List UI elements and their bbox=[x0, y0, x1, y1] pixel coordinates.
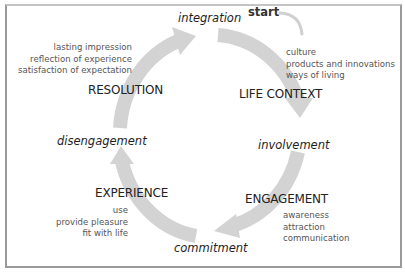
resolution-item: reflection of experience bbox=[18, 54, 132, 66]
phase-integration: integration bbox=[178, 13, 241, 25]
resolution-items: lasting impression reflection of experie… bbox=[18, 42, 132, 77]
experience-items: use provide pleasure fit with life bbox=[56, 205, 128, 240]
life-context-item: ways of living bbox=[286, 70, 395, 82]
stage-resolution: RESOLUTION bbox=[88, 84, 163, 96]
experience-item: provide pleasure bbox=[56, 217, 128, 229]
life-context-item: culture bbox=[286, 47, 395, 59]
resolution-item: lasting impression bbox=[18, 42, 132, 54]
stage-engagement: ENGAGEMENT bbox=[245, 193, 328, 205]
engagement-item: communication bbox=[283, 233, 349, 245]
engagement-items: awareness attraction communication bbox=[283, 210, 349, 245]
life-context-item: products and innovations bbox=[286, 59, 395, 71]
stage-experience: EXPERIENCE bbox=[95, 187, 168, 199]
experience-item: use bbox=[56, 205, 128, 217]
resolution-item: satisfaction of expectation bbox=[18, 65, 132, 77]
start-arrow-icon bbox=[280, 13, 302, 34]
experience-item: fit with life bbox=[56, 228, 128, 240]
life-context-items: culture products and innovations ways of… bbox=[286, 47, 395, 82]
stage-life-context: LIFE CONTEXT bbox=[239, 88, 322, 100]
engagement-item: awareness bbox=[283, 210, 349, 222]
engagement-item: attraction bbox=[283, 222, 349, 234]
phase-disengagement: disengagement bbox=[57, 136, 147, 148]
start-label: start bbox=[248, 7, 279, 19]
phase-involvement: involvement bbox=[258, 140, 329, 152]
phase-commitment: commitment bbox=[174, 243, 248, 255]
